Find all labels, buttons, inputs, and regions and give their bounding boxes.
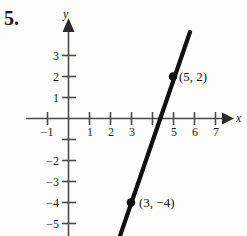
data-point-5-2 xyxy=(169,72,178,81)
x-tick-label-neg1: −1 xyxy=(37,126,57,138)
x-tick-label-1: 1 xyxy=(80,126,100,138)
x-tick-label-6: 6 xyxy=(185,126,205,138)
x-axis-label: x xyxy=(236,112,241,124)
y-tick-label-neg4: −4 xyxy=(33,197,59,209)
y-tick-label-neg5: −5 xyxy=(33,218,59,230)
point-annotation-3-neg4: (3, −4) xyxy=(139,196,175,209)
x-tick-label-5: 5 xyxy=(164,126,184,138)
x-tick-label-7: 7 xyxy=(206,126,226,138)
y-tick-label-1: 1 xyxy=(33,92,59,104)
y-axis-label: y xyxy=(63,8,68,20)
data-point-3-neg4 xyxy=(127,198,136,207)
point-annotation-5-2: (5, 2) xyxy=(179,70,207,83)
x-tick-label-2: 2 xyxy=(101,126,121,138)
y-tick-label-neg3: −3 xyxy=(33,176,59,188)
y-tick-label-neg2: −2 xyxy=(33,155,59,167)
y-tick-label-3: 3 xyxy=(33,50,59,62)
worksheet-figure: 5. xyxy=(0,0,247,236)
x-axis-arrow-icon xyxy=(222,113,234,125)
x-tick-label-3: 3 xyxy=(122,126,142,138)
y-tick-label-2: 2 xyxy=(33,71,59,83)
